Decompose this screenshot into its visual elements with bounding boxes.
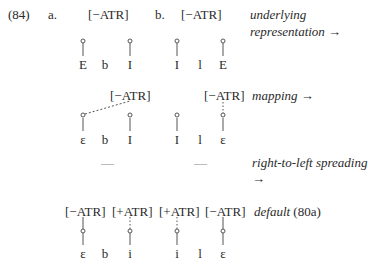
node-circle [128,39,132,43]
segment: i [169,247,185,261]
sub-label-b: b. [155,8,165,22]
segment: ε [75,133,91,147]
row-annotation: mapping → [252,89,314,103]
feature-label: [+ATR] [159,205,200,219]
row-annotation-continued: representation → [250,25,341,39]
sub-label-a: a. [48,8,57,22]
segment: i [122,247,138,261]
node-circle [81,39,85,43]
segment: I [122,58,138,72]
segment: E [215,58,231,72]
node-circle [175,39,179,43]
feature-label: [−ATR] [65,205,106,219]
row-annotation-continued: → [252,172,265,186]
segment: I [122,133,138,147]
annotation-reference: (80a) [293,204,320,219]
row-annotation: right-to-left spreading [252,156,367,170]
row-annotation: default (80a) [254,205,321,219]
row-annotation: underlying [250,8,306,22]
annotation-italic: default [254,204,290,219]
node-circle [128,113,132,117]
empty-step-dash: — [101,156,114,170]
feature-label: [−ATR] [204,89,245,103]
feature-label: [−ATR] [88,8,129,22]
node-circle [81,113,85,117]
segment: l [192,58,208,72]
segment: I [169,58,185,72]
segment: b [97,133,113,147]
feature-label: [−ATR] [181,8,222,22]
empty-step-dash: — [194,156,207,170]
node-circle [128,229,132,233]
segment: l [192,247,208,261]
node-circle [175,113,179,117]
feature-label: [+ATR] [112,205,153,219]
segment: I [169,133,185,147]
segment: ε [215,133,231,147]
example-number: (84) [8,8,30,22]
node-circle [175,229,179,233]
segment: l [192,133,208,147]
node-circle [221,229,225,233]
node-circle [221,39,225,43]
feature-label: [−ATR] [205,205,246,219]
node-circle [81,229,85,233]
segment: b [97,58,113,72]
segment: ε [215,247,231,261]
feature-label: [−ATR] [110,89,151,103]
node-circle [221,113,225,117]
segment: ε [75,247,91,261]
segment: b [97,247,113,261]
segment: E [75,58,91,72]
